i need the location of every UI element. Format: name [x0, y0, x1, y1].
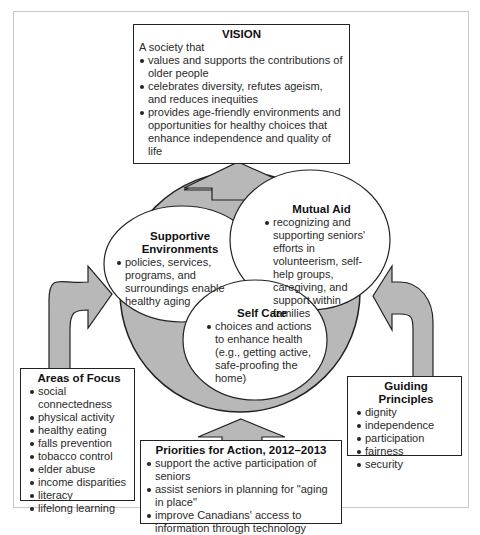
vision-item: values and supports the contributions of… [139, 54, 344, 80]
areas-of-focus-title: Areas of Focus [29, 372, 129, 385]
guiding-principles-box: Guiding Principles dignity independence … [347, 376, 462, 456]
right-curved-arrow-icon [373, 266, 433, 378]
guiding-principles-list: dignity independence participation fairn… [356, 406, 456, 471]
principle-item: security [356, 458, 456, 471]
vision-intro: A society that [139, 41, 344, 54]
area-item: lifelong learning [29, 502, 129, 515]
self-care-item: choices and actions to enhance health (e… [206, 320, 318, 385]
areas-of-focus-list: social connectedness physical activity h… [29, 385, 129, 515]
guiding-principles-title: Guiding Principles [356, 380, 456, 406]
supportive-environments-text: Supportive Environments policies, servic… [116, 230, 244, 308]
mutual-aid-title: Mutual Aid [264, 203, 379, 216]
area-item: healthy eating [29, 424, 129, 437]
principle-item: fairness [356, 445, 456, 458]
area-item: social connectedness [29, 385, 129, 411]
priority-item: improve Canadians' access to information… [146, 509, 336, 535]
priority-item: support the active participation of seni… [146, 457, 336, 483]
left-curved-arrow-icon [49, 266, 112, 370]
principle-item: dignity [356, 406, 456, 419]
areas-of-focus-box: Areas of Focus social connectedness phys… [20, 368, 135, 501]
supportive-environments-title-1: Supportive [116, 230, 244, 243]
priorities-title: Priorities for Action, 2012–2013 [146, 444, 336, 457]
area-item: tobacco control [29, 450, 129, 463]
area-item: elder abuse [29, 463, 129, 476]
principle-item: independence [356, 419, 456, 432]
mutual-aid-text: Mutual Aid recognizing and supporting se… [264, 203, 379, 320]
area-item: physical activity [29, 411, 129, 424]
self-care-text: Self Care choices and actions to enhance… [206, 307, 318, 385]
priorities-box: Priorities for Action, 2012–2013 support… [140, 440, 342, 524]
vision-item: celebrates diversity, refutes ageism, an… [139, 80, 344, 106]
vision-list: values and supports the contributions of… [139, 54, 344, 158]
mutual-aid-item: recognizing and supporting seniors' effo… [264, 216, 379, 320]
priorities-list: support the active participation of seni… [146, 457, 336, 535]
area-item: income disparities [29, 476, 129, 489]
mutual-aid-list: recognizing and supporting seniors' effo… [264, 216, 379, 320]
area-item: falls prevention [29, 437, 129, 450]
supportive-environments-item: policies, services, programs, and surrou… [116, 256, 244, 308]
supportive-environments-list: policies, services, programs, and surrou… [116, 256, 244, 308]
vision-item: provides age-friendly environments and o… [139, 106, 344, 158]
self-care-title: Self Care [206, 307, 318, 320]
priority-item: assist seniors in planning for "aging in… [146, 483, 336, 509]
self-care-list: choices and actions to enhance health (e… [206, 320, 318, 385]
area-item: literacy [29, 489, 129, 502]
vision-title: VISION [139, 28, 344, 41]
vision-box: VISION A society that values and support… [133, 24, 350, 164]
principle-item: participation [356, 432, 456, 445]
supportive-environments-title-2: Environments [116, 243, 244, 256]
